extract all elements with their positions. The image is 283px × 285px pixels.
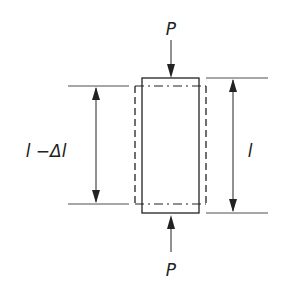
- compression-diagram: P P l: [0, 0, 283, 285]
- original-length-label: l: [248, 141, 253, 161]
- original-specimen: [142, 78, 199, 213]
- top-load-arrow: [167, 40, 175, 78]
- bottom-load-arrow: [167, 215, 175, 252]
- original-length-dimension: [206, 78, 268, 213]
- compressed-length-dimension: [68, 86, 129, 204]
- top-load-label: P: [166, 19, 177, 39]
- compressed-length-label: l −Δl: [26, 141, 67, 161]
- diagram-canvas: P P l: [0, 0, 283, 285]
- bottom-load-label: P: [166, 260, 177, 280]
- compressed-specimen: [135, 86, 206, 204]
